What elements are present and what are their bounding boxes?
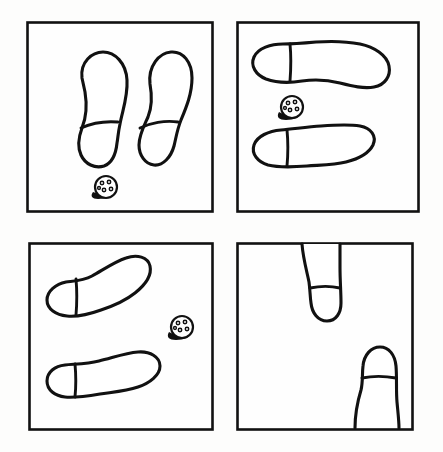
panel-bottom-right	[238, 244, 413, 430]
upper-shoe-print	[253, 41, 390, 87]
golf-stance-diagram: Golf stance footprint positions Four-pan…	[0, 0, 443, 452]
panel-top-left	[28, 23, 213, 212]
panel-top-right	[238, 23, 419, 212]
figure-root: Golf stance footprint positions Four-pan…	[0, 0, 443, 452]
panel-bottom-left	[30, 244, 213, 430]
